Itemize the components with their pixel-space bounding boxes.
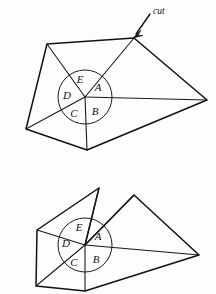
bottom-angle-labels: A B C D E — [61, 221, 102, 268]
top-spokes — [26, 38, 207, 150]
top-angle-label-E: E — [76, 73, 84, 85]
bottom-polygon-outline — [36, 188, 199, 291]
top-angle-label-B: B — [92, 105, 99, 117]
bottom-angle-label-B: B — [93, 253, 100, 265]
bottom-spoke-to-right — [85, 245, 199, 255]
top-spoke-to-right — [85, 97, 207, 100]
bottom-angle-label-E: E — [75, 221, 83, 233]
bottom-angle-label-C: C — [70, 256, 78, 268]
diagram-canvas: A B C D E cut A B C D — [0, 0, 216, 294]
bottom-spoke-to-rightpeak — [85, 195, 134, 245]
top-angle-label-D: D — [62, 89, 71, 101]
figure-bottom: A B C D E — [36, 188, 199, 291]
top-angle-label-C: C — [70, 107, 78, 119]
cut-arrow-shaft — [136, 14, 150, 34]
figure-top: A B C D E — [26, 38, 207, 150]
top-polygon-outline — [26, 38, 207, 150]
cut-label: cut — [153, 6, 165, 16]
geometry-diagram: A B C D E cut A B C D — [0, 0, 216, 294]
top-angle-labels: A B C D E — [62, 73, 102, 119]
bottom-spokes — [36, 188, 199, 291]
cut-annotation: cut — [133, 6, 165, 38]
bottom-angle-label-A: A — [94, 230, 102, 242]
top-angle-label-A: A — [94, 81, 102, 93]
top-spoke-to-cutvertex — [85, 38, 134, 97]
bottom-angle-label-D: D — [61, 237, 70, 249]
